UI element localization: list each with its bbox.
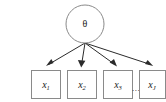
ellipsis-label: ... xyxy=(132,83,140,93)
edge-theta-x2-arrowhead xyxy=(78,60,86,68)
diagram-canvas: θ x1 x2 x3 ... xJ xyxy=(0,0,166,102)
edge-theta-x3-line xyxy=(85,43,115,65)
edge-theta-xJ-arrowhead xyxy=(145,60,153,66)
edge-group xyxy=(46,43,153,68)
graphical-model-diagram: θ x1 x2 x3 ... xJ xyxy=(0,0,166,102)
node-x3[interactable]: x3 xyxy=(104,71,133,99)
node-x1[interactable]: x1 xyxy=(32,71,61,99)
x1-label-subscript: 1 xyxy=(47,84,50,91)
edge-theta-x3 xyxy=(85,43,117,66)
edge-theta-xJ-line xyxy=(85,43,151,65)
edge-theta-x3-arrowhead xyxy=(110,59,117,66)
node-xJ[interactable]: xJ xyxy=(140,71,166,99)
x3-label-subscript: 3 xyxy=(118,84,123,91)
edge-theta-x1-arrowhead xyxy=(46,59,54,66)
theta-node-label: θ xyxy=(83,18,88,29)
node-x2[interactable]: x2 xyxy=(68,71,97,99)
edge-theta-xJ xyxy=(85,43,153,66)
node-theta[interactable]: θ xyxy=(66,5,104,43)
